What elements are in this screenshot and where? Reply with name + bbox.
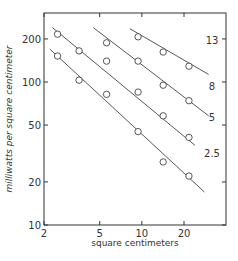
data-point [103, 91, 109, 97]
data-point [186, 173, 192, 179]
series-2-5: 2.5 [50, 49, 220, 192]
axis-ticks: 251020102050100200 [22, 13, 226, 239]
data-point [186, 63, 192, 69]
series-label: 8 [209, 81, 215, 92]
data-point [135, 128, 141, 134]
x-axis-label: square centimeters [91, 238, 179, 248]
series-label: 13 [206, 35, 219, 46]
series-label: 5 [209, 112, 215, 123]
data-point [160, 113, 166, 119]
data-point [76, 77, 82, 83]
fit-line [130, 29, 209, 75]
fit-line [50, 49, 205, 192]
series-8: 8 [93, 28, 215, 116]
data-point [160, 49, 166, 55]
data-point [54, 53, 60, 59]
data-series: 13852.5 [50, 28, 220, 192]
data-point [76, 48, 82, 54]
y-tick-label: 50 [28, 120, 41, 131]
y-tick-label: 20 [28, 177, 41, 188]
y-tick-label: 100 [22, 77, 41, 88]
data-point [103, 40, 109, 46]
series-label: 2.5 [204, 148, 220, 159]
data-point [160, 159, 166, 165]
y-axis-label: milliwatts per square centimeter [4, 44, 14, 192]
x-tick-label: 2 [41, 228, 47, 239]
fit-line [52, 28, 195, 146]
data-point [186, 134, 192, 140]
y-tick-label: 10 [28, 220, 41, 231]
data-point [186, 97, 192, 103]
x-tick-label: 20 [178, 228, 191, 239]
data-point [135, 89, 141, 95]
series-5: 5 [52, 28, 215, 146]
data-point [135, 34, 141, 40]
series-13: 13 [130, 29, 219, 75]
data-point [160, 82, 166, 88]
data-point [54, 31, 60, 37]
data-point [103, 58, 109, 64]
chart: 251020102050100200 13852.5 square centim… [0, 0, 238, 261]
plot-frame [44, 13, 226, 225]
y-tick-label: 200 [22, 34, 41, 45]
data-point [135, 58, 141, 64]
